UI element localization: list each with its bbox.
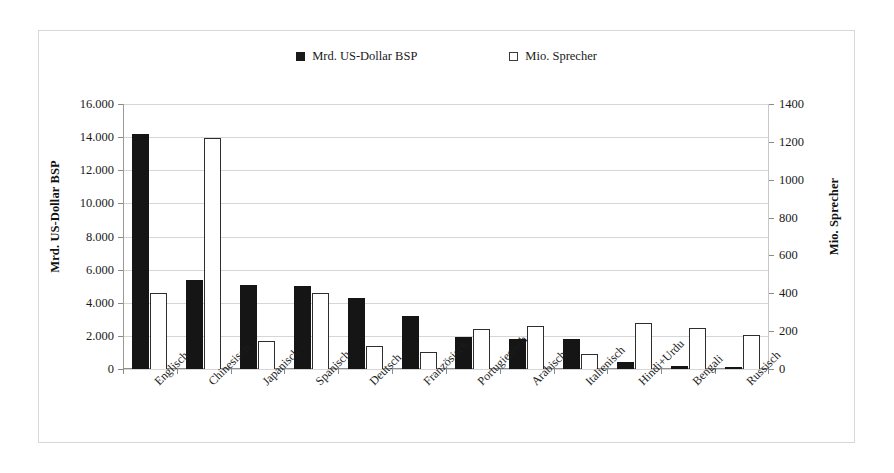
category-axis-labels: EnglischChinesischJapanischSpanischDeuts…: [123, 372, 769, 442]
bar-bsp[interactable]: [132, 134, 149, 369]
right-axis-title: Mio. Sprecher: [827, 137, 842, 297]
right-axis-tick-label: 800: [779, 211, 798, 224]
left-axis-tick-label: 8.000: [86, 230, 114, 243]
legend-label-sprecher: Mio. Sprecher: [525, 49, 597, 64]
bar-group: [500, 104, 554, 369]
left-axis-tick-label: 0: [108, 363, 114, 376]
bar-group: [392, 104, 446, 369]
right-axis-tick-mark: [769, 218, 774, 219]
category-label-slot: Englisch: [123, 372, 177, 442]
bar-sprecher[interactable]: [312, 293, 329, 369]
right-axis-tick-mark: [769, 293, 774, 294]
right-axis-tick-mark: [769, 104, 774, 105]
bar-series-container: [123, 104, 769, 369]
chart-legend: Mrd. US-Dollar BSP Mio. Sprecher: [39, 49, 854, 64]
right-axis-tick-label: 1000: [779, 173, 804, 186]
bar-bsp[interactable]: [725, 367, 742, 369]
right-axis-tick-mark: [769, 331, 774, 332]
category-label-slot: Italienisch: [554, 372, 608, 442]
left-axis-tick-label: 4.000: [86, 297, 114, 310]
left-axis-tick-label: 6.000: [86, 263, 114, 276]
category-label-slot: Portugiesisch: [446, 372, 500, 442]
left-axis-tick-label: 14.000: [80, 131, 114, 144]
filled-square-icon: [296, 52, 305, 61]
bar-sprecher[interactable]: [150, 293, 167, 369]
hollow-square-icon: [509, 52, 518, 61]
legend-label-bsp: Mrd. US-Dollar BSP: [312, 49, 417, 64]
right-axis-tick-mark: [769, 180, 774, 181]
category-label-slot: Arabisch: [500, 372, 554, 442]
category-label-slot: Japanisch: [231, 372, 285, 442]
left-axis-tick-label: 2.000: [86, 330, 114, 343]
bar-bsp[interactable]: [617, 362, 634, 369]
bar-bsp[interactable]: [671, 366, 688, 369]
bar-group: [661, 104, 715, 369]
plot-area: 02.0004.0006.0008.00010.00012.00014.0001…: [123, 104, 769, 369]
right-axis-tick-mark: [769, 255, 774, 256]
bar-group: [715, 104, 769, 369]
category-label-slot: Deutsch: [338, 372, 392, 442]
bar-sprecher[interactable]: [527, 326, 544, 369]
legend-entry-bsp[interactable]: Mrd. US-Dollar BSP: [296, 49, 417, 64]
right-axis-tick-label: 400: [779, 287, 798, 300]
left-axis-title: Mrd. US-Dollar BSP: [48, 137, 63, 297]
bar-group: [284, 104, 338, 369]
right-axis-tick-label: 0: [779, 363, 785, 376]
category-label-slot: Russisch: [715, 372, 769, 442]
category-label-slot: Französisch: [392, 372, 446, 442]
bar-group: [338, 104, 392, 369]
bar-sprecher[interactable]: [635, 323, 652, 369]
bar-sprecher[interactable]: [204, 138, 221, 369]
left-axis-tick-label: 16.000: [80, 98, 114, 111]
bar-group: [123, 104, 177, 369]
legend-entry-sprecher[interactable]: Mio. Sprecher: [509, 49, 597, 64]
right-axis-tick-label: 1200: [779, 136, 804, 149]
category-label-slot: Chinesisch: [177, 372, 231, 442]
bar-group: [607, 104, 661, 369]
category-label-slot: Spanisch: [284, 372, 338, 442]
bar-group: [231, 104, 285, 369]
left-axis-tick-label: 12.000: [80, 164, 114, 177]
bar-group: [446, 104, 500, 369]
bar-group: [554, 104, 608, 369]
bar-group: [177, 104, 231, 369]
chart-figure: Mrd. US-Dollar BSP Mio. Sprecher Mrd. US…: [38, 30, 855, 443]
category-label-slot: Hindi+Urdu: [607, 372, 661, 442]
right-axis-tick-label: 1400: [779, 98, 804, 111]
left-axis-tick-label: 10.000: [80, 197, 114, 210]
right-axis-tick-label: 600: [779, 249, 798, 262]
category-label-slot: Bengali: [661, 372, 715, 442]
right-axis-tick-mark: [769, 142, 774, 143]
right-axis-tick-label: 200: [779, 325, 798, 338]
